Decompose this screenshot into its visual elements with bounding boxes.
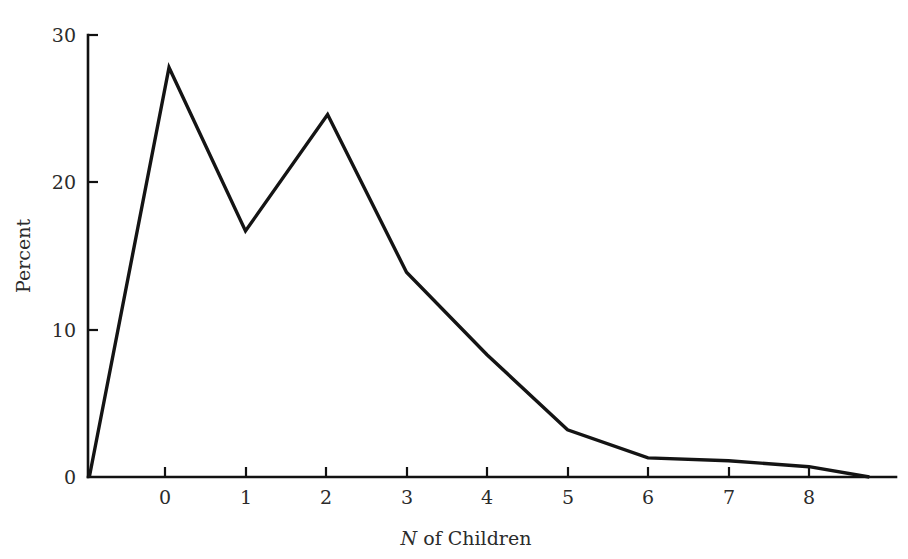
chart-background: [0, 0, 908, 559]
x-tick-label-1: 1: [240, 486, 252, 508]
x-tick-label-2: 2: [320, 486, 332, 508]
chart-figure: 30 20 10 0 0 1 2 3 4 5 6 7 8 Percent N o…: [0, 0, 908, 559]
line-chart-plot: 30 20 10 0 0 1 2 3 4 5 6 7 8 Percent N o…: [0, 0, 908, 559]
x-tick-label-0: 0: [159, 486, 171, 508]
y-tick-label-30: 30: [52, 24, 76, 46]
y-axis-title: Percent: [12, 219, 34, 293]
y-tick-label-10: 10: [52, 319, 76, 341]
x-tick-label-7: 7: [723, 486, 735, 508]
y-tick-label-0: 0: [64, 466, 76, 488]
x-axis-title-italic-n: N: [400, 527, 419, 549]
x-tick-label-3: 3: [401, 486, 413, 508]
x-tick-label-4: 4: [481, 486, 493, 508]
x-tick-label-8: 8: [803, 486, 815, 508]
y-tick-label-20: 20: [52, 171, 76, 193]
x-axis-title: N of Children: [400, 527, 532, 549]
x-axis-title-rest: of Children: [417, 527, 531, 549]
x-tick-label-5: 5: [562, 486, 574, 508]
x-tick-label-6: 6: [642, 486, 654, 508]
